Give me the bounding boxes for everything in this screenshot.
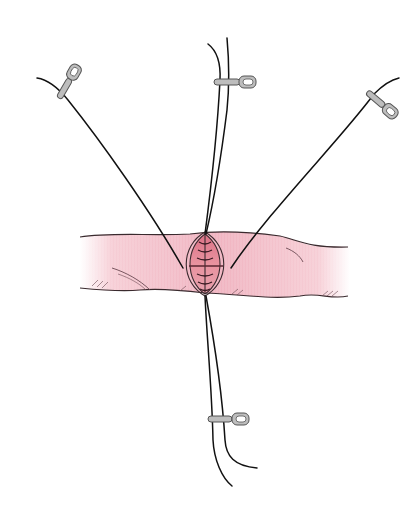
clip-bar [208,416,232,422]
clip-bottom[interactable] [208,413,249,425]
clip-upper-left[interactable] [54,62,83,101]
clip-loop-hole [243,79,253,85]
suture-illustration [0,0,418,510]
suture-bottom-left-strand [205,296,232,486]
clip-upper-right[interactable] [363,87,400,121]
clip-loop-hole [236,416,246,422]
clip-bar [214,79,240,85]
